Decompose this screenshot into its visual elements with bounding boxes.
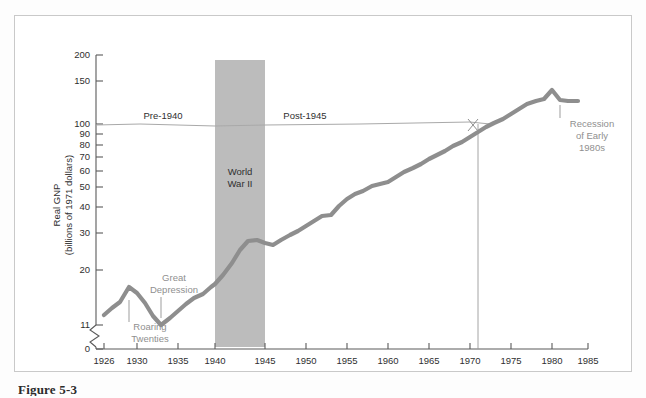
crossover-marker [468, 119, 478, 131]
y-tick-label-60: 60 [79, 165, 90, 176]
annotation-pre-1940: Pre-1940 [143, 110, 182, 121]
y-tick-label-40: 40 [79, 201, 90, 212]
gnp-chart: 200 150 100 90 80 70 60 50 40 30 20 11 0… [0, 0, 646, 398]
x-tick-label-1955: 1955 [336, 355, 357, 366]
figure-root: 200 150 100 90 80 70 60 50 40 30 20 11 0… [0, 0, 646, 398]
annotation-post-1945: Post-1945 [283, 110, 326, 121]
x-tick-label-1960: 1960 [377, 355, 398, 366]
y-tick-label-11: 11 [80, 319, 90, 330]
y-tick-label-150: 150 [74, 75, 90, 86]
y-tick-label-50: 50 [79, 181, 90, 192]
annotation-roaring-twenties-line2: Twenties [131, 333, 169, 344]
annotation-recession-1980s-line1: Recession [570, 118, 614, 129]
y-tick-marks [96, 55, 103, 349]
x-tick-label-1945: 1945 [254, 355, 275, 366]
x-tick-label-1965: 1965 [418, 355, 439, 366]
figure-caption: Figure 5-3 [18, 382, 77, 396]
y-tick-label-80: 80 [79, 139, 90, 150]
x-tick-label-1950: 1950 [295, 355, 316, 366]
annotation-great-depression-line2: Depression [150, 284, 198, 295]
annotation-recession-1980s-line2: of Early [576, 130, 608, 141]
y-axis-title-line2: (billions of 1971 dollars) [63, 155, 74, 255]
y-tick-label-200: 200 [74, 49, 90, 60]
y-axis-title-line1: Real GNP [51, 184, 62, 227]
y-tick-label-70: 70 [79, 151, 90, 162]
x-tick-marks [104, 343, 588, 349]
annotation-great-depression-line1: Great [162, 272, 186, 283]
annotation-recession-1980s-line3: 1980s [579, 142, 605, 153]
x-tick-label-1985: 1985 [577, 355, 598, 366]
x-tick-label-1926: 1926 [93, 355, 114, 366]
x-tick-label-1940: 1940 [204, 355, 225, 366]
x-tick-label-1930: 1930 [126, 355, 147, 366]
x-tick-label-1975: 1975 [500, 355, 521, 366]
annotation-world-war-ii-line1: World [228, 166, 253, 177]
annotation-roaring-twenties-line1: Roaring [133, 321, 166, 332]
world-war-ii-band [215, 60, 265, 347]
x-tick-label-1980: 1980 [541, 355, 562, 366]
x-tick-label-1970: 1970 [459, 355, 480, 366]
y-tick-label-20: 20 [79, 264, 90, 275]
y-tick-label-30: 30 [79, 227, 90, 238]
trend-reference-line [96, 122, 490, 126]
y-axis-break-zigzag [90, 325, 99, 347]
x-tick-label-1935: 1935 [167, 355, 188, 366]
y-tick-label-0: 0 [85, 343, 90, 354]
y-tick-label-90: 90 [79, 128, 90, 139]
annotation-world-war-ii-line2: War II [228, 178, 253, 189]
